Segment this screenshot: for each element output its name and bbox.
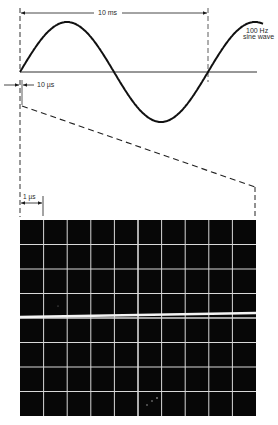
sine-zoom-diagram: 10 ms 100 Hz sine wave 10 µs 1 µs [0, 0, 278, 425]
window-width-label: 10 µs [37, 81, 54, 88]
waveform-type-label: sine wave [243, 33, 274, 40]
diagram-canvas [0, 0, 278, 425]
time-per-division-label: 1 µs [23, 193, 35, 200]
zoom-projection [22, 106, 255, 218]
oscilloscope-screen [20, 220, 256, 416]
period-label: 10 ms [96, 9, 119, 16]
